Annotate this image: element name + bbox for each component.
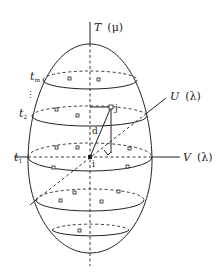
distance-label: d — [92, 126, 98, 136]
u-axis-outer — [147, 98, 166, 113]
slice-t1-front — [28, 157, 152, 171]
slice-t2-front — [32, 116, 147, 126]
u-axis-label: U (λ) — [170, 86, 201, 103]
slice-label-t1: t1 — [14, 151, 22, 164]
slice-label-t2: t2 — [19, 107, 27, 120]
slice-t2-back — [32, 106, 147, 116]
point-j — [109, 105, 113, 109]
point-i-label: i — [92, 159, 95, 169]
right-angle-marker — [104, 150, 111, 155]
v-axis-label: V (λ) — [183, 147, 213, 164]
ellipsoid-diagram: T (μ) U (λ) V (λ) tm ⋮ t2 t1 j i d — [0, 0, 221, 276]
slice-ellipsis: ⋮ — [26, 90, 35, 100]
t-axis-label: T (μ) — [94, 17, 123, 34]
slice-bottom-back — [52, 224, 129, 230]
slice-label-tm: tm — [30, 70, 40, 83]
slice-bottom-front — [52, 230, 129, 236]
point-j-label: j — [114, 103, 118, 113]
